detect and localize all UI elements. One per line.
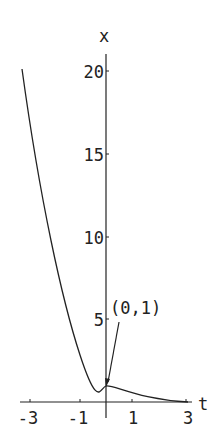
x-axis-label: t [198, 394, 208, 414]
y-axis-label: x [99, 26, 109, 46]
annotation-label: (0,1) [110, 298, 161, 318]
y-tick-label: 5 [94, 310, 104, 330]
y-tick-label: 15 [84, 145, 104, 165]
x-tick-label: 3 [183, 408, 193, 428]
chart: 5 10 15 20 -3 -1 1 3 x t (0,1) [0, 0, 217, 439]
y-tick-label: 10 [84, 228, 104, 248]
y-tick-label: 20 [84, 62, 104, 82]
x-tick-label: -3 [18, 408, 38, 428]
curve-exp-decay [22, 69, 188, 402]
x-tick-label: 1 [128, 408, 138, 428]
x-tick-label: -1 [68, 408, 88, 428]
annotation-arrow [108, 322, 119, 382]
